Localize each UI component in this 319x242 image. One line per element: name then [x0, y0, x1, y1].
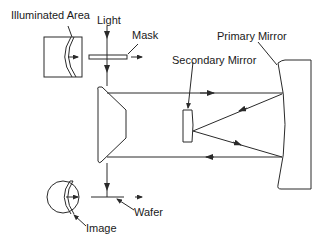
illuminated-area-box — [44, 26, 82, 77]
mask-label: Mask — [132, 29, 158, 41]
mask — [89, 44, 142, 59]
secondary-mirror — [183, 62, 193, 142]
fold-prism — [98, 87, 126, 163]
diagram-canvas: Illuminated Area Light Mask Primary Mirr… — [0, 0, 319, 242]
primary-to-secondary-ray — [193, 94, 282, 131]
primary-mirror-label: Primary Mirror — [217, 30, 287, 42]
secondary-mirror-label: Secondary Mirror — [172, 54, 256, 66]
primary-mirror — [258, 42, 311, 189]
light-label: Light — [97, 14, 121, 26]
image-field — [47, 181, 86, 226]
image-label: Image — [86, 222, 117, 234]
illuminated-area-label: Illuminated Area — [11, 9, 90, 21]
wafer-label: Wafer — [134, 206, 163, 218]
